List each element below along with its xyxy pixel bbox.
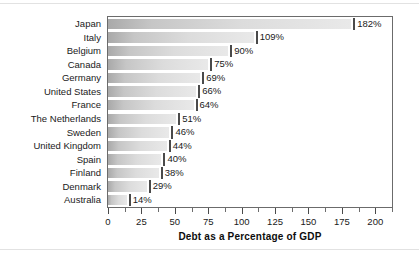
bar-value-tick xyxy=(129,194,131,206)
x-tick-major xyxy=(108,208,109,214)
category-label: United Kingdom xyxy=(0,140,101,151)
bar-row: 51% xyxy=(108,114,392,124)
bar-value-label: 75% xyxy=(214,59,233,69)
bar xyxy=(108,19,351,29)
x-tick-major xyxy=(342,208,343,214)
x-axis-title: Debt as a Percentage of GDP xyxy=(107,231,393,242)
bar-value-tick xyxy=(202,72,204,84)
x-tick-label: 50 xyxy=(170,216,181,227)
bar-row: 40% xyxy=(108,154,392,164)
bars-layer: 182%109%90%75%69%66%64%51%46%44%40%38%29… xyxy=(108,17,392,207)
bar-value-label: 109% xyxy=(260,32,284,42)
bar-value-label: 40% xyxy=(167,154,186,164)
category-label: Japan xyxy=(0,18,101,29)
category-axis-labels: JapanItalyBelgiumCanadaGermanyUnited Sta… xyxy=(0,17,101,207)
bar-value-label: 64% xyxy=(200,100,219,110)
bar xyxy=(108,168,159,178)
bar-row: 46% xyxy=(108,127,392,137)
x-tick-major xyxy=(141,208,142,214)
bar-value-tick xyxy=(161,167,163,179)
bar xyxy=(108,100,194,110)
x-tick-minor xyxy=(392,208,393,212)
x-tick-label: 125 xyxy=(267,216,283,227)
x-tick-major xyxy=(375,208,376,214)
category-label: Spain xyxy=(0,154,101,165)
bar xyxy=(108,46,228,56)
bar-row: 90% xyxy=(108,46,392,56)
bar-value-label: 44% xyxy=(173,141,192,151)
x-tick-label: 200 xyxy=(367,216,383,227)
category-label: Australia xyxy=(0,194,101,205)
category-label: The Netherlands xyxy=(0,113,101,124)
bar-row: 109% xyxy=(108,32,392,42)
bar-value-tick xyxy=(163,153,165,165)
chart-figure: JapanItalyBelgiumCanadaGermanyUnited Sta… xyxy=(0,0,419,262)
bar-row: 38% xyxy=(108,168,392,178)
x-tick-label: 150 xyxy=(301,216,317,227)
x-tick-minor xyxy=(292,208,293,212)
bar-value-label: 14% xyxy=(133,195,152,205)
bar xyxy=(108,141,167,151)
category-label: Belgium xyxy=(0,45,101,56)
x-tick-major xyxy=(275,208,276,214)
x-tick-major xyxy=(308,208,309,214)
x-tick-minor xyxy=(325,208,326,212)
x-tick-minor xyxy=(258,208,259,212)
category-label: Finland xyxy=(0,167,101,178)
category-label: France xyxy=(0,99,101,110)
bar-value-label: 90% xyxy=(234,46,253,56)
x-tick-label: 25 xyxy=(136,216,147,227)
bar-value-label: 29% xyxy=(153,181,172,191)
x-tick-major xyxy=(175,208,176,214)
category-label: Sweden xyxy=(0,127,101,138)
x-tick-label: 75 xyxy=(203,216,214,227)
bottom-divider xyxy=(0,249,419,250)
bar-value-tick xyxy=(353,18,355,30)
bar-row: 14% xyxy=(108,195,392,205)
bar-row: 182% xyxy=(108,19,392,29)
x-tick-minor xyxy=(158,208,159,212)
category-label: Denmark xyxy=(0,181,101,192)
x-tick-minor xyxy=(125,208,126,212)
bar-value-tick xyxy=(149,180,151,192)
category-label: United States xyxy=(0,86,101,97)
x-tick-label: 0 xyxy=(105,216,110,227)
bar xyxy=(108,32,254,42)
bar-value-label: 46% xyxy=(175,127,194,137)
category-label: Canada xyxy=(0,59,101,70)
bar xyxy=(108,181,147,191)
x-tick-minor xyxy=(192,208,193,212)
bar xyxy=(108,59,208,69)
bar-value-tick xyxy=(256,31,258,43)
bar-value-tick xyxy=(171,126,173,138)
bar xyxy=(108,86,196,96)
bar-row: 44% xyxy=(108,141,392,151)
bar-value-tick xyxy=(230,45,232,57)
category-label: Italy xyxy=(0,32,101,43)
bar-row: 29% xyxy=(108,181,392,191)
x-tick-label: 175 xyxy=(334,216,350,227)
bar-value-label: 69% xyxy=(206,73,225,83)
bar-value-tick xyxy=(169,140,171,152)
x-tick-major xyxy=(208,208,209,214)
x-tick-minor xyxy=(225,208,226,212)
x-tick-major xyxy=(242,208,243,214)
bar-value-label: 66% xyxy=(202,86,221,96)
x-tick-label: 100 xyxy=(234,216,250,227)
bar-value-tick xyxy=(210,58,212,70)
bar-value-tick xyxy=(196,99,198,111)
bar-row: 64% xyxy=(108,100,392,110)
bar-row: 75% xyxy=(108,59,392,69)
bar-value-label: 182% xyxy=(357,19,381,29)
bar xyxy=(108,154,161,164)
category-label: Germany xyxy=(0,72,101,83)
bar-value-label: 38% xyxy=(165,168,184,178)
bar-row: 69% xyxy=(108,73,392,83)
bar-value-tick xyxy=(178,113,180,125)
bar xyxy=(108,114,176,124)
bar-row: 66% xyxy=(108,86,392,96)
bar xyxy=(108,127,169,137)
top-divider xyxy=(0,3,419,4)
x-tick-minor xyxy=(359,208,360,212)
bar-value-label: 51% xyxy=(182,114,201,124)
